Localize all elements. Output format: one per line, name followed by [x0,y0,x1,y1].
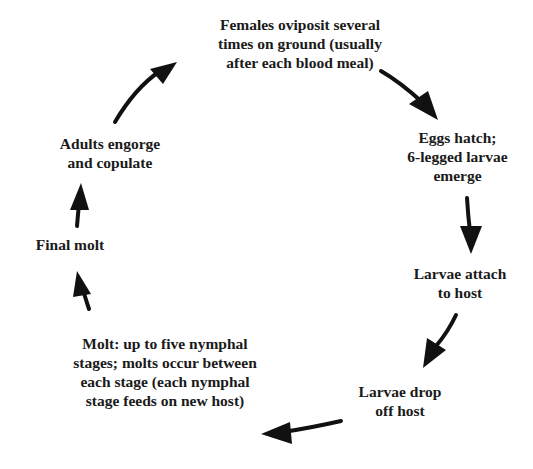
arrow-drop-to-molt [261,421,341,444]
arrow-adults-to-oviposit [115,62,177,122]
arrow-eggs-to-larvae-attach [460,198,482,254]
arrow-molt-to-final [73,271,91,309]
arrow-attach-to-drop [423,315,456,368]
cycle-arrows [0,0,533,469]
arrow-final-to-adults [70,183,89,226]
arrow-oviposit-to-eggs [381,71,438,120]
